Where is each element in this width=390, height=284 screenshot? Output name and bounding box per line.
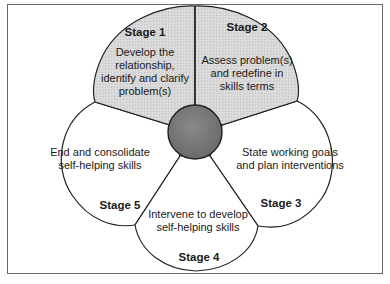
stage-3-line: State working goals bbox=[236, 146, 344, 159]
stage-1-line: problem(s) bbox=[101, 85, 189, 98]
stage-5-title: Stage 5 bbox=[100, 199, 141, 212]
stage-1-text: Develop the relationship, identify and c… bbox=[101, 46, 189, 98]
stage-3-text: State working goals and plan interventio… bbox=[236, 146, 344, 172]
stage-3-line: and plan interventions bbox=[236, 159, 344, 172]
stage-2-line: skills terms bbox=[201, 80, 292, 93]
cycle-diagram bbox=[0, 0, 390, 284]
stage-4-line: Intervene to develop bbox=[148, 208, 248, 221]
stage-1-line: relationship, bbox=[101, 59, 189, 72]
stage-5-line: End and consolidate bbox=[50, 146, 150, 159]
stage-1-line: Develop the bbox=[101, 46, 189, 59]
stage-1-line: identify and clarify bbox=[101, 72, 189, 85]
stage-4-line: self-helping skills bbox=[148, 221, 248, 234]
stage-2-title: Stage 2 bbox=[227, 21, 268, 34]
stage-2-text: Assess problem(s) and redefine in skills… bbox=[201, 54, 292, 93]
stage-5-line: self-helping skills bbox=[50, 159, 150, 172]
stage-2-line: Assess problem(s) bbox=[201, 54, 292, 67]
stage-4-title: Stage 4 bbox=[179, 251, 220, 264]
stage-1-title: Stage 1 bbox=[125, 26, 166, 39]
stage-2-line: and redefine in bbox=[201, 67, 292, 80]
stage-4-text: Intervene to develop self-helping skills bbox=[148, 208, 248, 234]
stage-5-text: End and consolidate self-helping skills bbox=[50, 146, 150, 172]
stage-3-title: Stage 3 bbox=[261, 197, 302, 210]
center-hub bbox=[168, 105, 222, 159]
